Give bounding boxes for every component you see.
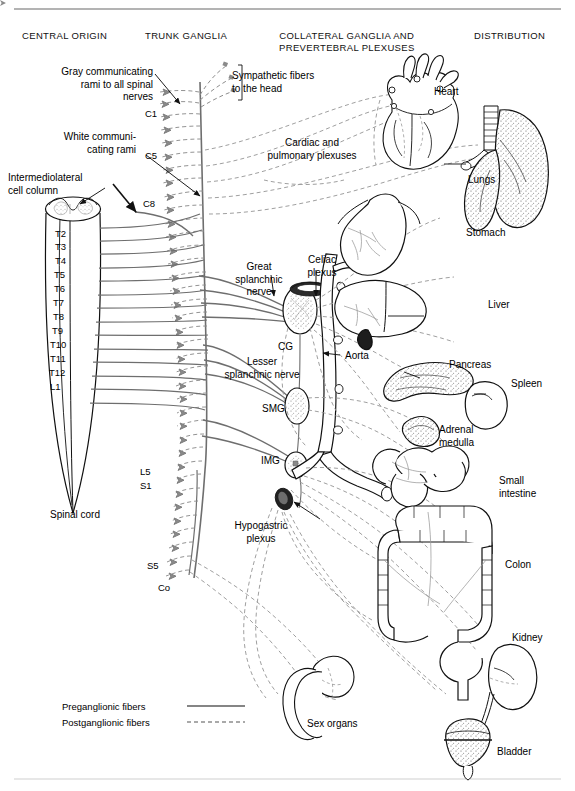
chain-label-co: Co: [158, 582, 170, 593]
organ-label-sex-organs: Sex organs: [307, 718, 358, 731]
organ-label-kidney: Kidney: [512, 632, 543, 645]
label-great-splanchnic-nerve: Great splanchnic nerve: [226, 261, 292, 299]
label-lesser-splanchnic-nerve: Lesser splanchnic nerve: [214, 356, 310, 381]
label-gray-communicating-rami: Gray communicating rami to all spinal ne…: [38, 66, 153, 104]
organ-label-lungs: Lungs: [468, 174, 495, 187]
label-spinal-cord: Spinal cord: [38, 509, 112, 522]
column-heading-central-origin: CENTRAL ORIGIN: [22, 30, 107, 42]
organ-label-small-intestine: Small intestine: [499, 475, 553, 500]
chain-label-c5: C5: [145, 150, 157, 161]
label-white-communicating-rami: White communi- cating rami: [18, 131, 136, 156]
column-heading-distribution: DISTRIBUTION: [474, 30, 545, 42]
segment-label-t11: T11: [50, 353, 66, 364]
label-intermediolateral-cell-column: Intermediolateral cell column: [8, 172, 116, 197]
chain-label-s5: S5: [147, 560, 159, 571]
segment-label-l1: L1: [50, 381, 61, 392]
organ-label-stomach: Stomach: [466, 227, 505, 240]
organ-label-pancreas: Pancreas: [449, 359, 491, 372]
chain-label-c8: C8: [143, 198, 155, 209]
segment-label-t10: T10: [50, 339, 66, 350]
segment-label-t4: T4: [55, 255, 66, 266]
segment-label-t2: T2: [55, 228, 66, 239]
chain-label-s1: S1: [140, 480, 152, 491]
organ-label-adrenal-medulla: Adrenal medulla: [439, 424, 501, 449]
organ-label-liver: Liver: [488, 299, 510, 312]
label-aorta: Aorta: [345, 350, 369, 363]
column-heading-collateral-ganglia: COLLATERAL GANGLIA AND PREVERTEBRAL PLEX…: [279, 30, 415, 54]
segment-label-t8: T8: [53, 311, 64, 322]
label-cardiac-pulmonary-plexuses: Cardiac and pulmonary plexuses: [256, 137, 368, 162]
segment-label-t6: T6: [54, 283, 65, 294]
segment-label-t7: T7: [53, 297, 64, 308]
anatomy-artwork: [0, 0, 575, 791]
organ-label-bladder: Bladder: [497, 746, 531, 759]
label-sympathetic-fibers-to-head: Sympathetic fibers to the head: [232, 70, 342, 95]
label-img: IMG: [261, 455, 280, 468]
label-smg: SMG: [262, 403, 285, 416]
organ-label-spleen: Spleen: [511, 378, 542, 391]
segment-label-t9: T9: [52, 325, 63, 336]
chain-label-c1: C1: [145, 108, 157, 119]
organ-label-colon: Colon: [505, 559, 531, 572]
label-hypogastric-plexus: Hypogastric plexus: [222, 520, 300, 545]
chain-label-l5: L5: [140, 466, 151, 477]
segment-label-t12: T12: [49, 367, 65, 378]
diagram-canvas: CENTRAL ORIGIN TRUNK GANGLIA COLLATERAL …: [0, 0, 575, 791]
legend-label-postganglionic: Postganglionic fibers: [62, 716, 150, 729]
legend-label-preganglionic: Preganglionic fibers: [62, 700, 145, 713]
label-cg: CG: [278, 341, 293, 354]
segment-label-t3: T3: [55, 241, 66, 252]
column-heading-trunk-ganglia: TRUNK GANGLIA: [145, 30, 227, 42]
organ-label-heart: Heart: [434, 86, 458, 99]
segment-label-t5: T5: [54, 269, 65, 280]
label-celiac-plexus: Celiac plexus: [296, 254, 348, 279]
